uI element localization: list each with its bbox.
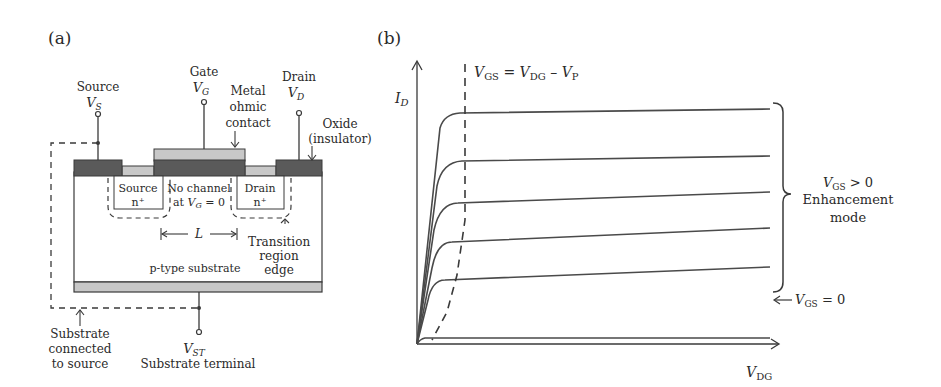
curve-vgs-5 — [417, 109, 770, 344]
panel-a: (a) — [48, 28, 372, 371]
metal-label-2: ohmic — [230, 100, 267, 114]
panel-b-label: (b) — [377, 28, 401, 48]
source-region-label: Source — [118, 182, 157, 195]
panel-a-label: (a) — [48, 28, 71, 48]
drain-terminal[interactable] — [297, 111, 302, 116]
source-terminal[interactable] — [96, 112, 101, 117]
vg-symbol: VG — [193, 80, 210, 97]
source-doping-label: n⁺ — [132, 196, 145, 209]
vd-symbol: VD — [288, 85, 305, 102]
curve-vgs-2 — [417, 228, 770, 344]
channel-length-label: L — [194, 227, 203, 241]
panel-b: (b) ID VDG VGS = VDG – VP VGS > 0 Enhanc… — [377, 28, 894, 382]
vst-symbol: VST — [183, 341, 206, 358]
source-junction-dot — [96, 141, 100, 145]
substrate-junction-dot — [197, 306, 201, 310]
transition-label-1: Transition — [248, 235, 311, 249]
enhancement-brace — [773, 103, 791, 292]
curve-vgs-3 — [417, 192, 770, 344]
vgs-zero-label: VGS = 0 — [795, 292, 845, 309]
oxide-label-2: (insulator) — [308, 132, 372, 146]
substrate-contact — [74, 282, 322, 292]
substrate-connected-label-2: connected — [49, 342, 112, 356]
oxide-right — [245, 166, 276, 176]
drain-region-label: Drain — [244, 182, 275, 195]
oxide-label-1: Oxide — [322, 117, 357, 131]
substrate-label: p-type substrate — [149, 262, 240, 275]
pinchoff-boundary — [432, 64, 465, 340]
drain-doping-label: n⁺ — [254, 196, 267, 209]
boundary-label: VGS = VDG – VP — [474, 64, 579, 82]
vs-symbol: VS — [86, 95, 102, 112]
substrate-terminal-label: Substrate terminal — [141, 357, 256, 371]
gate-terminal[interactable] — [202, 100, 207, 105]
substrate-connected-label-3: to source — [52, 357, 109, 371]
y-axis-label: ID — [394, 90, 409, 108]
no-channel-label-1: No channel — [167, 182, 231, 195]
gate-metal — [154, 160, 245, 176]
source-label: Source — [77, 80, 120, 94]
figure-canvas: (a) — [0, 0, 941, 387]
source-metal — [74, 160, 122, 176]
curve-vgs-0 — [417, 338, 770, 344]
drain-label: Drain — [282, 70, 316, 84]
drain-metal — [276, 160, 322, 176]
transition-label-2: region — [259, 249, 299, 263]
transition-label-3: edge — [264, 263, 294, 277]
metal-label-1: Metal — [230, 84, 265, 98]
characteristic-curves — [417, 109, 770, 344]
substrate-terminal[interactable] — [197, 330, 202, 335]
substrate-connected-label-1: Substrate — [50, 327, 109, 341]
oxide-left — [122, 166, 154, 176]
gate-label: Gate — [190, 65, 219, 79]
mode-label: mode — [830, 210, 866, 225]
metal-label-3: contact — [225, 116, 270, 130]
enhancement-condition: VGS > 0 — [823, 175, 873, 192]
x-axis-label: VDG — [746, 364, 772, 382]
curve-vgs-4 — [417, 156, 770, 344]
curve-vgs-1 — [417, 267, 770, 344]
enhancement-label: Enhancement — [803, 192, 895, 207]
gate-oxide-top — [154, 149, 245, 161]
